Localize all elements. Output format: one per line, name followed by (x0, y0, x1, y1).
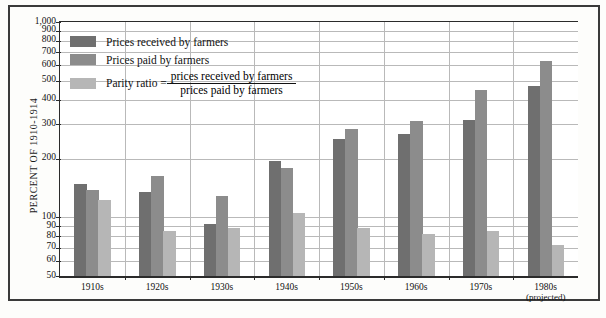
y-axis-tick-mark (56, 248, 61, 249)
x-axis-tick-mark (125, 276, 126, 280)
y-axis-tick-label: 70 (12, 241, 56, 251)
bar (345, 129, 358, 276)
y-axis-tick-mark (56, 22, 61, 23)
x-axis-tick-mark (190, 276, 191, 280)
x-axis-tick-mark (384, 276, 385, 280)
x-axis-tick-mark (449, 276, 450, 280)
bar (139, 192, 152, 276)
bar (422, 234, 435, 276)
bar (269, 161, 282, 276)
x-axis-label: 1970s (449, 282, 514, 292)
bar (540, 61, 553, 276)
y-axis-tick-label: 200 (12, 152, 56, 162)
x-axis-label: 1980s(projected) (513, 282, 578, 302)
parity-ratio-denominator: prices paid by farmers (167, 83, 297, 97)
y-axis-tick-label: 90 (12, 220, 56, 230)
x-axis-tick-mark (513, 276, 514, 280)
y-axis-tick-label: 700 (12, 46, 56, 56)
x-axis-sublabel: (projected) (513, 292, 578, 302)
legend-label-parity-ratio: Parity ratio = (106, 77, 167, 89)
x-axis-label: 1940s (254, 282, 319, 292)
y-axis-tick-label: 50 (12, 270, 56, 280)
legend-swatch-prices-paid (70, 54, 96, 65)
y-axis-tick-mark (56, 100, 61, 101)
legend-item-parity-ratio: Parity ratio = prices received by farmer… (70, 70, 296, 97)
bar (333, 139, 346, 277)
vertical-gridline (449, 22, 450, 276)
legend-item-prices-received: Prices received by farmers (70, 34, 296, 49)
bar (228, 228, 241, 276)
bar (86, 190, 99, 276)
bar (216, 196, 229, 276)
bar (74, 184, 87, 276)
y-axis-tick-mark (56, 159, 61, 160)
y-axis-tick-label: 80 (12, 230, 56, 240)
vertical-gridline (319, 22, 320, 276)
y-axis-tick-label: 800 (12, 34, 56, 44)
frame-border-left (8, 5, 10, 301)
y-axis-tick-mark (56, 226, 61, 227)
bar (463, 120, 476, 276)
chart-legend: Prices received by farmers Prices paid b… (70, 34, 296, 97)
bar (398, 134, 411, 276)
bar (487, 231, 500, 276)
vertical-gridline (513, 22, 514, 276)
x-axis-label: 1950s (319, 282, 384, 292)
legend-label-prices-received: Prices received by farmers (106, 36, 228, 48)
y-axis-tick-mark (56, 236, 61, 237)
bar (281, 168, 294, 276)
y-axis-tick-mark (56, 41, 61, 42)
y-axis-tick-mark (56, 81, 61, 82)
y-axis-tick-mark (56, 124, 61, 125)
y-axis-tick-label: 900 (12, 24, 56, 34)
y-axis-tick-label: 400 (12, 93, 56, 103)
x-axis-label: 1960s (384, 282, 449, 292)
vertical-gridline (384, 22, 385, 276)
y-axis-tick-label: 500 (12, 74, 56, 84)
parity-ratio-numerator: prices received by farmers (167, 70, 297, 83)
frame-border-top (8, 5, 600, 7)
bar (293, 213, 306, 276)
bar (552, 245, 565, 276)
y-axis-tick-mark (56, 52, 61, 53)
legend-swatch-parity-ratio (70, 78, 96, 89)
frame-border-bottom (8, 299, 600, 301)
y-axis-tick-mark (56, 261, 61, 262)
legend-label-prices-paid: Prices paid by farmers (106, 54, 209, 66)
chart-figure: PERCENT OF 1910-1914 1,00090080070060050… (0, 0, 606, 318)
x-axis-label: 1920s (125, 282, 190, 292)
bar (528, 86, 541, 276)
y-axis-tick-mark (56, 65, 61, 66)
bar (151, 176, 164, 276)
x-axis-tick-mark (319, 276, 320, 280)
frame-border-right (598, 5, 600, 301)
legend-item-prices-paid: Prices paid by farmers (70, 52, 296, 67)
x-axis-label: 1930s (190, 282, 255, 292)
y-axis-tick-mark (56, 31, 61, 32)
x-axis-tick-mark (254, 276, 255, 280)
legend-swatch-prices-received (70, 36, 96, 47)
bar (410, 121, 423, 276)
y-axis-tick-mark (56, 217, 61, 218)
y-axis-tick-label: 300 (12, 118, 56, 128)
bar (357, 228, 370, 276)
bar (163, 231, 176, 276)
bar (475, 90, 488, 276)
y-axis-tick-mark (56, 276, 61, 277)
bar (204, 224, 217, 276)
y-axis-tick-label: 60 (12, 254, 56, 264)
y-axis-tick-label: 600 (12, 59, 56, 69)
bar (98, 200, 111, 276)
x-axis-label: 1910s (60, 282, 125, 292)
parity-ratio-formula: prices received by farmers prices paid b… (167, 70, 297, 97)
